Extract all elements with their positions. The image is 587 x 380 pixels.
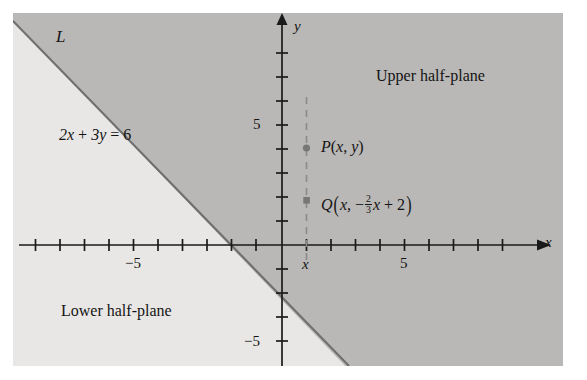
x-axis-label: x [545,235,552,250]
upper-half-plane-label: Upper half-plane [376,68,485,84]
point-p-letter: P [321,138,331,155]
point-q-fraction: 23 [365,194,372,215]
point-q-letter: Q [321,196,333,213]
point-q-close-paren: ) [406,194,411,217]
lower-half-plane-label: Lower half-plane [61,303,172,319]
plot-area: L 2x + 3y = 6 Upper half-plane Lower hal… [13,13,563,366]
point-p-label: P(x, y) [321,139,364,155]
x-coordinate-marker-label: x [302,257,309,272]
point-q-minus: − [355,196,364,213]
point-p-coords: (x, y) [331,138,364,155]
point-q-first-arg: x, [340,196,351,213]
point-q-open-paren: ( [334,194,339,217]
line-label-L: L [56,28,65,45]
point-q-label: Q(x, −23x + 2) [321,194,412,215]
y-tick-label-5: 5 [253,117,261,132]
point-q-plus-two: + 2 [384,196,405,213]
y-tick-label-neg5: −5 [244,334,260,349]
point-p-marker [303,144,310,151]
x-tick-label-5: 5 [400,256,408,271]
fraction-denominator: 3 [365,205,372,215]
point-q-var-x: x [373,196,380,213]
x-tick-label-neg5: −5 [125,256,141,271]
line-equation-label: 2x + 3y = 6 [59,127,131,143]
y-axis-label: y [294,19,301,34]
figure-container: L 2x + 3y = 6 Upper half-plane Lower hal… [0,0,587,380]
point-q-marker [303,197,310,204]
